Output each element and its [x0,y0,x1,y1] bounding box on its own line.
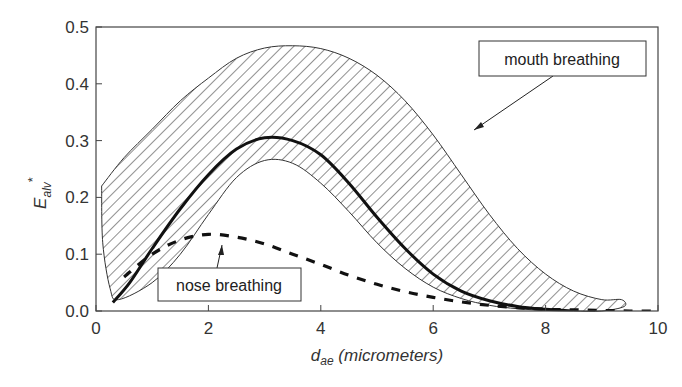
y-tick-label: 0.5 [65,18,89,37]
mouth-breathing-annotation: mouth breathing [474,41,646,130]
y-tick-label: 0.1 [65,245,89,264]
y-tick-label: 0.3 [65,132,89,151]
chart: 0246810 0.00.10.20.30.40.5 Ealv* dae (mi… [0,0,682,387]
x-tick-label: 4 [316,319,325,338]
x-tick-label: 0 [91,319,100,338]
y-tick-label: 0.0 [65,302,89,321]
y-axis-label: Ealv* [25,177,54,209]
y-tick-label: 0.4 [65,75,89,94]
x-axis-label: dae (micrometers) [311,346,443,368]
mouth-breathing-label: mouth breathing [504,51,620,68]
x-tick-label: 10 [649,319,668,338]
x-tick-label: 8 [541,319,550,338]
x-tick-label: 6 [428,319,437,338]
x-tick-label: 2 [204,319,213,338]
nose-breathing-label: nose breathing [176,277,282,294]
y-tick-label: 0.2 [65,188,89,207]
